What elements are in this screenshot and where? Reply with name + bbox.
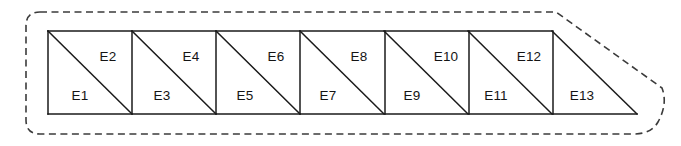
element-label-e8: E8 — [351, 49, 368, 64]
element-label-e9: E9 — [404, 88, 421, 103]
mesh-diagram: E1E2E3E4E5E6E7E8E9E10E11E12E13 — [0, 0, 681, 146]
element-label-e6: E6 — [268, 49, 285, 64]
element-label-e2: E2 — [100, 49, 117, 64]
element-label-e13: E13 — [570, 88, 595, 103]
element-label-e10: E10 — [434, 49, 459, 64]
element-label-e4: E4 — [183, 49, 200, 64]
element-label-e5: E5 — [237, 88, 254, 103]
element-label-e11: E11 — [484, 88, 508, 103]
element-label-e7: E7 — [320, 88, 337, 103]
mesh-svg-canvas: E1E2E3E4E5E6E7E8E9E10E11E12E13 — [0, 0, 681, 146]
element-label-e1: E1 — [72, 88, 89, 103]
element-label-e3: E3 — [154, 88, 171, 103]
element-label-e12: E12 — [517, 49, 542, 64]
